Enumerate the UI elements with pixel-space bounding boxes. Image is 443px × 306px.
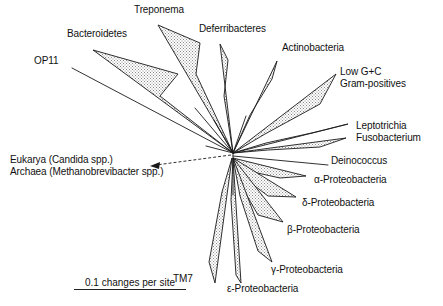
label-outgroup: Eukarya (Candida spp.) Archaea (Methanob… [10, 154, 163, 178]
wedge-tm7 [209, 158, 232, 283]
label-alpha-proteobacteria: α-Proteobacteria [314, 174, 387, 186]
label-low-gc-line1: Low G+C [340, 66, 381, 77]
wedge-bacteroidetes [93, 50, 233, 153]
scale-bar-rule [74, 289, 186, 290]
scale-bar-label: 0.1 changes per site [74, 277, 186, 288]
label-outgroup-eukarya: Eukarya (Candida spp.) [10, 154, 113, 165]
wedge-deferribacteres [220, 44, 233, 153]
label-epsilon-proteobacteria: ε-Proteobacteria [227, 283, 298, 295]
label-op11: OP11 [34, 55, 58, 67]
label-beta-proteobacteria: β-Proteobacteria [287, 224, 360, 236]
label-treponema: Treponema [134, 4, 184, 16]
label-leptotrichia: Leptotrichia [356, 120, 407, 132]
scale-bar: 0.1 changes per site [74, 277, 186, 290]
label-delta-proteobacteria: δ-Proteobacteria [302, 197, 374, 209]
label-actinobacteria: Actinobacteria [282, 42, 344, 54]
phylogenetic-tree-figure: OP11 Bacteroidetes Treponema Deferribact… [0, 0, 443, 306]
label-deinococcus: Deinococcus [331, 155, 387, 167]
label-deferribacteres: Deferribacteres [199, 23, 266, 35]
label-fusobacterium: Fusobacterium [356, 132, 421, 144]
outgroup-arrow-shaft [156, 155, 231, 165]
label-low-gc-gram-positives: Low G+C Gram-positives [340, 66, 406, 90]
label-gamma-proteobacteria: γ-Proteobacteria [271, 264, 343, 276]
label-outgroup-archaea: Archaea (Methanobrevibacter spp.) [10, 166, 163, 177]
tree-diagram [0, 0, 443, 306]
label-bacteroidetes: Bacteroidetes [67, 28, 127, 40]
label-low-gc-line2: Gram-positives [340, 78, 406, 89]
